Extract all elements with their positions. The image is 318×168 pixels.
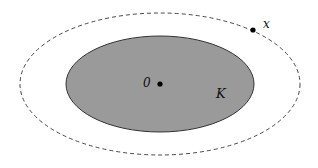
point-x-label: x [263, 17, 270, 31]
set-k-label: K [215, 86, 227, 101]
point-x [250, 27, 255, 32]
origin-point [157, 81, 162, 86]
diagram-svg: 0 K x [0, 0, 318, 168]
origin-label: 0 [143, 76, 151, 90]
diagram-canvas: 0 K x [0, 0, 318, 168]
